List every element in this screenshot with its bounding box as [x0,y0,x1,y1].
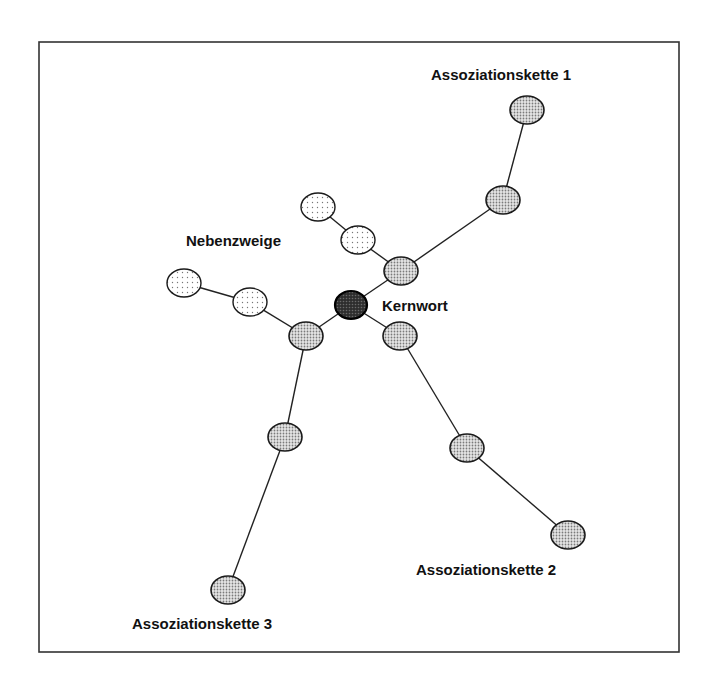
side-branch1-node-1 [341,226,375,254]
chain3-node-1 [289,322,323,350]
side-branch2-node-1 [233,288,267,316]
side-branch2-node-2 [167,269,201,297]
diagram-frame [39,42,679,652]
label-chain2: Assoziationskette 2 [416,561,556,578]
chain1-node-1 [384,257,418,285]
chain1-node-3 [510,96,544,124]
chain3-node-2 [268,423,302,451]
chain2-node-3 [551,521,585,549]
edge-chain3-2 [228,437,285,590]
chain3-node-3 [211,576,245,604]
edge-chain1-1 [401,200,503,271]
label-chain1: Assoziationskette 1 [431,66,571,83]
edge-chain3-1 [285,336,306,437]
edge-chain2-1 [400,336,467,448]
core-word-node [335,291,367,319]
association-diagram: Assoziationskette 1 Nebenzweige Kernwort… [0,0,711,676]
label-core-word: Kernwort [382,297,448,314]
chain1-node-2 [486,186,520,214]
label-chain3: Assoziationskette 3 [132,615,272,632]
label-side-branches: Nebenzweige [186,232,281,249]
chain2-node-2 [450,434,484,462]
edge-chain2-2 [467,448,568,535]
nodes [167,96,585,604]
chain2-node-1 [383,322,417,350]
edges [184,110,568,590]
side-branch1-node-2 [301,193,335,221]
